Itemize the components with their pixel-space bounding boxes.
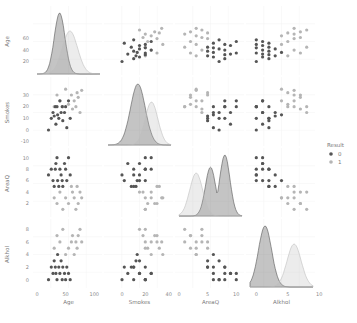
scatter-point-1: [305, 208, 308, 211]
scatter-point-1: [195, 34, 198, 37]
scatter-point-0: [261, 40, 264, 43]
scatter-point-0: [261, 162, 264, 165]
scatter-point-1: [200, 111, 203, 114]
y-tick: 10: [23, 155, 29, 161]
scatter-point-1: [293, 93, 296, 96]
scatter-point-0: [206, 54, 209, 57]
scatter-point-0: [223, 105, 226, 108]
x-tick: 5: [206, 291, 209, 297]
scatter-point-0: [218, 38, 221, 41]
scatter-point-0: [267, 53, 270, 56]
scatter-point-0: [212, 113, 215, 116]
x-tick: 0: [120, 291, 123, 297]
scatter-point-1: [144, 228, 147, 231]
scatter-point-1: [189, 234, 192, 237]
scatter-point-0: [267, 119, 270, 122]
scatter-point-1: [70, 93, 73, 96]
scatter-point-0: [130, 266, 133, 269]
scatter-point-0: [144, 46, 147, 49]
scatter-point-1: [195, 240, 198, 243]
scatter-point-1: [78, 228, 81, 231]
scatter-point-1: [77, 96, 80, 99]
panel-alkhol-vs-age: [33, 219, 102, 288]
scatter-point-1: [299, 202, 302, 205]
scatter-point-0: [223, 117, 226, 120]
scatter-point-0: [218, 60, 221, 63]
scatter-point-1: [293, 185, 296, 188]
scatter-point-1: [78, 191, 81, 194]
scatter-point-0: [229, 111, 232, 114]
scatter-point-1: [158, 185, 161, 188]
scatter-point-0: [255, 60, 258, 63]
x-tick: 0: [177, 291, 180, 297]
scatter-point-1: [286, 40, 289, 43]
scatter-point-0: [274, 185, 277, 188]
scatter-point-1: [153, 30, 156, 33]
scatter-point-0: [144, 266, 147, 269]
scatter-point-0: [126, 53, 129, 56]
scatter-point-1: [293, 33, 296, 36]
scatter-point-0: [57, 117, 60, 120]
scatter-point-1: [138, 228, 141, 231]
scatter-point-1: [280, 43, 283, 46]
scatter-point-1: [150, 196, 153, 199]
scatter-point-1: [71, 107, 74, 110]
y-tick: 60: [23, 35, 29, 41]
y-tick: 20: [23, 58, 29, 64]
scatter-point-0: [212, 42, 215, 45]
scatter-point-0: [58, 168, 61, 171]
scatter-point-0: [280, 113, 283, 116]
scatter-point-0: [53, 114, 56, 117]
scatter-point-0: [218, 128, 221, 131]
scatter-point-0: [54, 168, 57, 171]
panel-smokes-vs-areaq: [175, 77, 244, 146]
scatter-point-1: [160, 27, 163, 30]
scatter-point-1: [138, 191, 141, 194]
scatter-point-1: [293, 37, 296, 40]
scatter-point-1: [61, 208, 64, 211]
scatter-point-1: [195, 105, 198, 108]
scatter-point-0: [132, 278, 135, 281]
scatter-point-0: [212, 105, 215, 108]
scatter-point-0: [144, 43, 147, 46]
scatter-point-0: [255, 105, 258, 108]
scatter-point-0: [150, 49, 153, 52]
scatter-point-1: [76, 91, 79, 94]
y-tick: 2: [26, 200, 29, 206]
scatter-point-0: [54, 123, 57, 126]
panel-alkhol-vs-smokes: [104, 219, 173, 288]
scatter-point-1: [195, 89, 198, 92]
scatter-point-0: [63, 272, 66, 275]
scatter-point-1: [195, 253, 198, 256]
scatter-point-1: [200, 28, 203, 31]
scatter-point-1: [55, 202, 58, 205]
scatter-point-0: [54, 266, 57, 269]
scatter-point-0: [206, 259, 209, 262]
scatter-point-0: [54, 162, 57, 165]
scatter-point-1: [73, 99, 76, 102]
scatter-point-0: [223, 53, 226, 56]
y-tick: 40: [23, 47, 29, 53]
scatter-point-1: [189, 30, 192, 33]
scatter-point-0: [261, 123, 264, 126]
scatter-point-1: [144, 240, 147, 243]
scatter-point-0: [56, 179, 59, 182]
pairplot-chart: Age204060Smokes-100102030AreaQ246810Alkh…: [0, 0, 357, 323]
scatter-point-1: [195, 43, 198, 46]
y-axis-label-alkhol: Alkhol: [4, 246, 10, 263]
scatter-point-1: [183, 105, 186, 108]
scatter-point-1: [74, 105, 77, 108]
scatter-point-1: [293, 105, 296, 108]
x-tick: 100: [89, 291, 99, 297]
scatter-point-1: [305, 105, 308, 108]
scatter-point-1: [77, 234, 80, 237]
scatter-point-1: [58, 240, 61, 243]
scatter-point-1: [70, 185, 73, 188]
scatter-point-0: [218, 117, 221, 120]
scatter-point-0: [126, 272, 129, 275]
legend-title: Result: [327, 142, 345, 148]
scatter-point-0: [267, 50, 270, 53]
scatter-point-1: [286, 185, 289, 188]
scatter-point-0: [144, 156, 147, 159]
scatter-point-1: [305, 46, 308, 49]
